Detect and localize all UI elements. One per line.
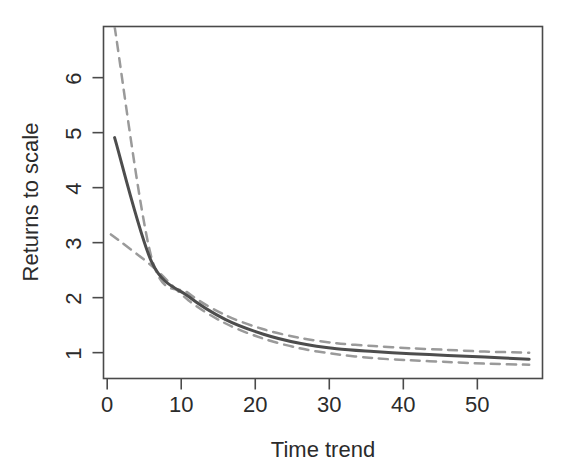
x-axis-tick-label: 0: [101, 392, 113, 417]
figure-container: 123456 01020304050 Time trend Returns to…: [0, 0, 566, 470]
x-axis-tick-label: 50: [465, 392, 489, 417]
x-axis-tick-label: 40: [391, 392, 415, 417]
y-axis-tick-label: 5: [62, 128, 87, 140]
x-axis-tick-label: 20: [243, 392, 267, 417]
y-axis-tick-label: 4: [62, 183, 87, 195]
y-axis-tick-label: 3: [62, 238, 87, 250]
y-axis-tick-label: 1: [62, 348, 87, 360]
y-axis-tick-label: 2: [62, 293, 87, 305]
chart-canvas: 123456 01020304050 Time trend Returns to…: [0, 0, 566, 470]
y-axis-title: Returns to scale: [18, 123, 43, 282]
x-axis-tick-label: 30: [317, 392, 341, 417]
x-axis-tick-label: 10: [169, 392, 193, 417]
x-axis-title: Time trend: [271, 437, 375, 462]
y-axis-tick-label: 6: [62, 73, 87, 85]
